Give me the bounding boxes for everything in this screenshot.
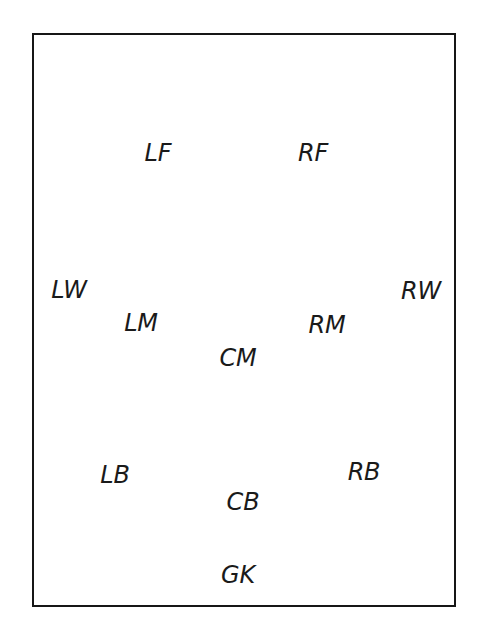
position-label-rf: RF — [298, 141, 328, 165]
position-label-lb: LB — [100, 463, 129, 487]
pitch-boundary — [32, 33, 456, 607]
position-label-lm: LM — [124, 311, 158, 335]
position-label-lw: LW — [51, 278, 87, 302]
position-label-cm: CM — [219, 346, 256, 370]
position-label-rb: RB — [348, 460, 381, 484]
position-label-cb: CB — [227, 490, 260, 514]
position-label-rm: RM — [309, 313, 346, 337]
position-label-gk: GK — [221, 563, 255, 587]
position-label-rw: RW — [401, 279, 441, 303]
position-label-lf: LF — [145, 141, 172, 165]
position-diagram: LF RF LW RW LM RM CM LB RB CB GK — [0, 0, 489, 634]
